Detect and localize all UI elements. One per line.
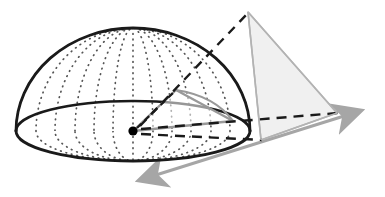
geometry-figure: A hemisphere drawn with dotted meridian … — [0, 0, 385, 197]
center-vertex-dot — [128, 126, 137, 135]
solid-angle-diagram: A hemisphere drawn with dotted meridian … — [0, 0, 385, 197]
